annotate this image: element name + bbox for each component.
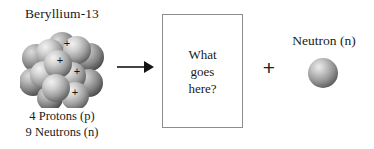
svg-text:+: + bbox=[57, 54, 63, 66]
plus-operator: + bbox=[258, 57, 280, 79]
question-line-2: goes bbox=[188, 63, 216, 80]
equation-figure: Beryllium-13 bbox=[0, 0, 374, 149]
reaction-arrow-icon bbox=[116, 58, 156, 76]
unknown-product-box[interactable]: What goes here? bbox=[162, 14, 243, 128]
neutron-count-label: 9 Neutrons (n) bbox=[0, 124, 124, 140]
neutron-title: Neutron (n) bbox=[274, 33, 374, 49]
proton-count-label: 4 Protons (p) bbox=[0, 108, 124, 124]
isotope-title: Beryllium-13 bbox=[0, 6, 124, 22]
svg-text:+: + bbox=[72, 86, 78, 98]
svg-text:+: + bbox=[74, 65, 80, 77]
isotope-composition-legend: 4 Protons (p) 9 Neutrons (n) bbox=[0, 108, 124, 140]
unknown-product-text: What goes here? bbox=[188, 46, 216, 97]
neutron-particle-illustration bbox=[307, 57, 339, 89]
question-line-3: here? bbox=[188, 80, 216, 97]
question-line-1: What bbox=[188, 46, 216, 63]
svg-text:+: + bbox=[64, 37, 70, 49]
beryllium-nucleus-illustration: + + + + bbox=[20, 26, 106, 108]
